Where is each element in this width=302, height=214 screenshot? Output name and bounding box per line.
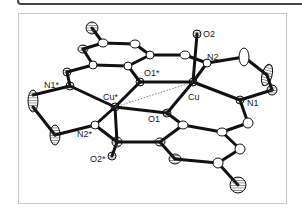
label-n2: N2: [207, 52, 219, 62]
atoms: [28, 22, 277, 193]
label-n1-star: N1*: [44, 80, 60, 90]
label-n1: N1: [247, 98, 259, 108]
label-o2-star: O2*: [90, 154, 106, 164]
molecule-diagram: Cu Cu* O1 O1* O2 O2* N1 N1* N2 N2*: [0, 0, 302, 214]
label-o1: O1: [148, 114, 160, 124]
label-o2: O2: [203, 29, 215, 39]
label-cu: Cu: [188, 92, 200, 102]
label-n2-star: N2*: [77, 129, 93, 139]
label-cu-star: Cu*: [103, 92, 119, 102]
label-o1-star: O1*: [144, 68, 160, 78]
